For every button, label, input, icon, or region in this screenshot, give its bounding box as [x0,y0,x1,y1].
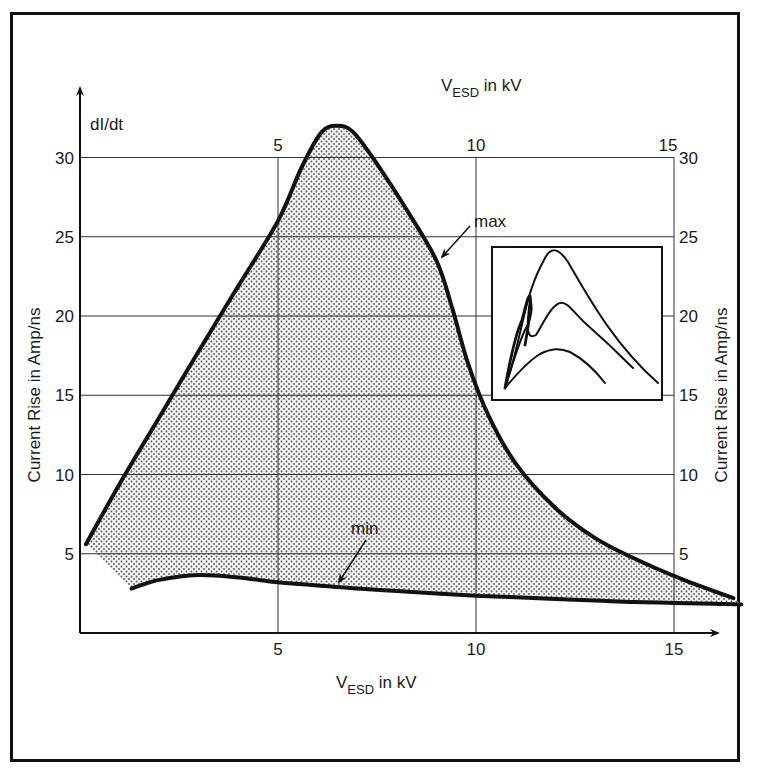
x-tick-label-top: 5 [273,136,282,155]
x-axis-label-top: VESD in kV [441,76,522,100]
y-tick-label-left: 20 [55,307,74,326]
annotation-min-label: min [351,519,378,538]
x-tick-label-top: 10 [467,136,486,155]
chart: 55101015152020252530305510101515 dI/dtCu… [0,0,758,771]
annotation-max-arrow [442,226,470,257]
y-tick-label-left: 10 [55,466,74,485]
y-tick-label-right: 30 [679,149,698,168]
y-tick-label-right: 25 [679,228,698,247]
annotation-max-label: max [474,212,507,231]
y-tick-label-left: 5 [65,545,74,564]
x-tick-label-bottom: 15 [665,640,684,659]
x-tick-label-bottom: 5 [273,640,282,659]
y-tick-label-left: 30 [55,149,74,168]
x-tick-label-bottom: 10 [467,640,486,659]
y-tick-label-right: 20 [679,307,698,326]
y-tick-label-right: 15 [679,386,698,405]
inset-frame [492,247,662,400]
y-axis-symbol: dI/dt [90,115,123,134]
y-tick-label-left: 25 [55,228,74,247]
y-tick-label-right: 5 [679,545,688,564]
y-axis-label-left: Current Rise in Amp/ns [25,308,44,483]
x-axis-label-bottom: VESD in kV [336,673,417,697]
y-axis-label-right: Current Rise in Amp/ns [712,308,731,483]
y-tick-label-right: 10 [679,466,698,485]
y-tick-label-left: 15 [55,386,74,405]
x-tick-label-top: 15 [659,136,678,155]
